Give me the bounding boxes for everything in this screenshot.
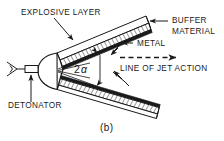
label-buffer-material-line1: BUFFER <box>172 16 207 25</box>
label-angle-number: 2 <box>74 63 80 75</box>
label-line-of-jet-action: LINE OF JET ACTION <box>120 64 208 73</box>
label-explosive-layer: EXPLOSIVE LAYER <box>21 8 101 17</box>
label-angle-symbol: α <box>81 63 88 75</box>
label-buffer-material-line2: MATERIAL <box>172 27 215 36</box>
detonator <box>7 62 38 76</box>
explosive-layer-leader <box>54 18 73 40</box>
figure-container: EXPLOSIVE LAYER BUFFER MATERIAL METAL LI… <box>0 0 224 141</box>
label-metal: METAL <box>137 39 166 48</box>
label-detonator: DETONATOR <box>8 101 62 110</box>
figure-caption: (b) <box>100 122 113 133</box>
shaped-charge-diagram: EXPLOSIVE LAYER BUFFER MATERIAL METAL LI… <box>0 0 224 141</box>
lower-arm-explosive-layer <box>58 79 159 114</box>
metal-leader-lower <box>113 71 129 86</box>
angle-brace <box>97 53 100 86</box>
